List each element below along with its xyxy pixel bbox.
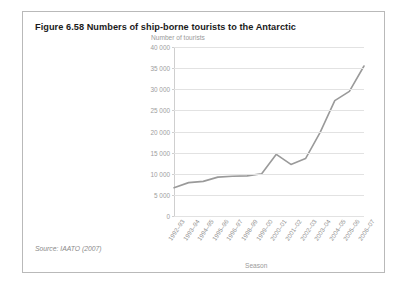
y-tick-label: 10 000 [150,170,170,177]
y-tick-mark [172,47,174,48]
gridline [174,153,364,154]
y-tick-label: 20 000 [150,128,170,135]
plot-area: 05 00010 00015 00020 00025 00030 00035 0… [174,47,364,216]
y-tick-label: 5 000 [154,191,170,198]
y-tick-label: 30 000 [150,86,170,93]
y-tick-mark [172,110,174,111]
gridline [174,89,364,90]
y-tick-mark [172,174,174,175]
y-tick-mark [172,89,174,90]
y-tick-mark [172,132,174,133]
y-tick-label: 35 000 [150,65,170,72]
y-tick-mark [172,216,174,217]
y-tick-mark [172,195,174,196]
y-tick-label: 40 000 [150,44,170,51]
y-tick-mark [172,153,174,154]
y-tick-label: 15 000 [150,149,170,156]
y-tick-label: 0 [166,213,170,220]
gridline [174,68,364,69]
figure-title: Figure 6.58 Numbers of ship-borne touris… [35,22,296,32]
y-tick-label: 25 000 [150,107,170,114]
source-note: Source: IAATO (2007) [35,245,102,252]
figure-panel: Figure 6.58 Numbers of ship-borne touris… [22,11,385,273]
gridline [174,110,364,111]
gridline [174,216,364,217]
y-tick-mark [172,68,174,69]
chart: Number of tourists 05 00010 00015 00020 … [127,34,373,266]
gridline [174,174,364,175]
x-axis-tick-labels: 1992–931993–941994–951995–961996–971998–… [174,218,364,258]
gridline [174,132,364,133]
x-axis-title: Season [245,262,267,269]
gridline [174,47,364,48]
y-axis-title: Number of tourists [151,34,205,41]
gridline [174,195,364,196]
